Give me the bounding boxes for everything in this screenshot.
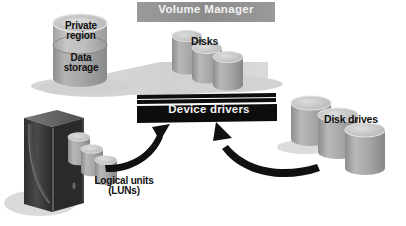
disk-drives-label: Disk drives: [324, 114, 378, 125]
private-region-label: Private region: [57, 21, 105, 41]
arrow-luns-to-drivers: [105, 124, 170, 172]
diagram-canvas: Volume Manager Private region Data stora…: [0, 0, 406, 226]
device-drivers-label: Device drivers: [140, 104, 278, 116]
data-storage-label: Data storage: [56, 53, 106, 73]
disks-label: Disks: [191, 36, 218, 47]
disk-cylinder-3: [213, 52, 243, 91]
disk-drive-cylinder-3: [345, 123, 385, 175]
disk-drives-group: [277, 96, 385, 175]
logical-units-label: Logical units (LUNs): [86, 176, 162, 196]
volume-manager-label: Volume Manager: [137, 4, 275, 16]
